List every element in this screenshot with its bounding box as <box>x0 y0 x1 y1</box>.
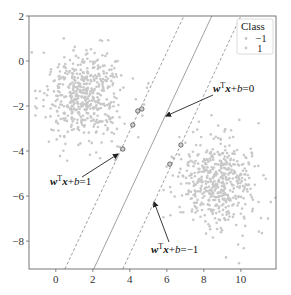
data-point <box>92 119 95 122</box>
data-point <box>194 175 197 178</box>
data-point <box>188 153 191 156</box>
data-point <box>233 152 236 155</box>
data-point <box>206 149 209 152</box>
data-point <box>75 95 78 98</box>
data-point <box>225 256 228 259</box>
data-point <box>82 80 85 83</box>
data-point <box>231 204 234 207</box>
annotation-label: wTx+b=1 <box>50 174 91 187</box>
data-point <box>96 121 99 124</box>
data-point <box>115 73 118 76</box>
data-point <box>190 177 193 180</box>
data-point <box>214 163 217 166</box>
data-point <box>58 106 61 109</box>
x-tick-label: 6 <box>164 273 170 285</box>
data-point <box>49 115 52 118</box>
data-point <box>197 171 200 174</box>
data-point <box>246 190 249 193</box>
data-point <box>44 116 47 119</box>
data-point <box>85 49 88 52</box>
data-point <box>92 92 95 95</box>
data-point <box>260 217 263 220</box>
data-point <box>66 159 69 162</box>
data-point <box>181 194 184 197</box>
data-point <box>101 89 104 92</box>
data-point <box>235 197 238 200</box>
data-point <box>207 203 210 206</box>
data-point <box>225 206 228 209</box>
data-point <box>63 105 66 108</box>
data-point <box>208 199 211 202</box>
data-point <box>230 169 233 172</box>
data-point <box>92 67 95 70</box>
data-point <box>67 86 70 89</box>
data-point <box>228 168 231 171</box>
data-point <box>90 48 93 51</box>
data-point <box>217 186 220 189</box>
data-point <box>182 211 185 214</box>
data-point <box>106 52 109 55</box>
data-point <box>112 101 115 104</box>
data-point <box>238 262 241 265</box>
data-point <box>80 69 83 72</box>
data-point <box>208 191 211 194</box>
data-point <box>111 73 114 76</box>
data-point <box>201 209 204 212</box>
data-point <box>211 195 214 198</box>
data-point <box>237 195 240 198</box>
data-point <box>222 177 225 180</box>
data-point <box>39 90 42 93</box>
data-point <box>80 91 83 94</box>
data-point <box>193 172 196 175</box>
data-point <box>187 164 190 167</box>
data-point <box>67 115 70 118</box>
data-point <box>96 100 99 103</box>
data-point <box>83 83 86 86</box>
data-point <box>72 73 75 76</box>
data-point <box>100 103 103 106</box>
data-point <box>186 169 189 172</box>
data-point <box>234 195 237 198</box>
data-point <box>77 105 80 108</box>
data-point <box>67 131 70 134</box>
data-point <box>232 159 235 162</box>
data-point <box>237 243 240 246</box>
data-point <box>196 128 199 131</box>
data-point <box>233 187 236 190</box>
data-point <box>169 186 172 189</box>
data-point <box>194 190 197 193</box>
data-point <box>132 77 135 80</box>
data-point <box>211 168 214 171</box>
data-point <box>213 137 216 140</box>
data-point <box>76 122 79 125</box>
data-point <box>59 83 62 86</box>
data-point <box>240 212 243 215</box>
data-point <box>244 225 247 228</box>
data-point <box>213 174 216 177</box>
data-point <box>73 118 76 121</box>
data-point <box>106 87 109 90</box>
data-point <box>195 207 198 210</box>
data-point <box>82 86 85 89</box>
y-tick-label: 0 <box>19 55 25 67</box>
data-point <box>110 80 113 83</box>
data-point <box>200 176 203 179</box>
data-point <box>85 98 88 101</box>
data-point <box>203 166 206 169</box>
data-point <box>208 225 211 228</box>
y-tick-label: −8 <box>12 235 24 247</box>
data-point <box>56 110 59 113</box>
data-point <box>93 113 96 116</box>
data-point <box>251 208 254 211</box>
data-point <box>110 121 113 124</box>
data-point <box>137 136 140 139</box>
data-point <box>230 129 233 132</box>
data-point <box>191 197 194 200</box>
data-point <box>250 147 253 150</box>
data-point <box>219 142 222 145</box>
data-point <box>70 124 73 127</box>
data-point <box>238 119 241 122</box>
legend-marker-pos1 <box>245 47 248 50</box>
data-point <box>147 82 150 85</box>
data-point <box>62 150 65 153</box>
